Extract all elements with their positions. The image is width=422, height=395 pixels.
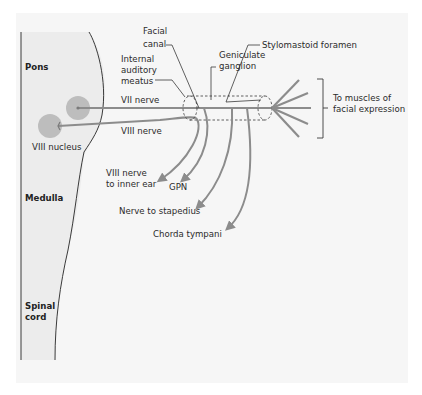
label-viii-inner-ear: VIII nerve xyxy=(106,168,147,178)
label-spinal-cord-2: cord xyxy=(25,312,46,322)
label-geniculate-ganglion: Geniculate xyxy=(219,50,265,60)
label-geniculate-ganglion-2: ganglion xyxy=(219,61,256,71)
label-facial-canal-2: canal xyxy=(143,39,166,49)
label-muscles: To muscles of xyxy=(332,93,392,103)
label-nerve-to-stapedius: Nerve to stapedius xyxy=(119,206,201,216)
label-internal-auditory-meatus-3: meatus xyxy=(121,76,154,86)
label-chorda-tympani: Chorda tympani xyxy=(153,229,222,239)
label-internal-auditory-meatus-2: auditory xyxy=(121,65,157,75)
label-gpn: GPN xyxy=(169,182,187,192)
label-stylomastoid-foramen: Stylomastoid foramen xyxy=(262,40,357,50)
label-viii-inner-ear-2: to inner ear xyxy=(106,179,157,189)
label-facial-canal: Facial xyxy=(143,26,167,36)
label-viii-nucleus: VIII nucleus xyxy=(32,142,82,152)
label-internal-auditory-meatus: Internal xyxy=(121,54,154,64)
facial-nerve-diagram: Pons Medulla Spinal cord Facial canal In… xyxy=(0,0,422,395)
label-spinal-cord-1: Spinal xyxy=(25,301,55,311)
label-muscles-2: facial expression xyxy=(333,104,405,114)
label-viii-nerve: VIII nerve xyxy=(121,126,162,136)
label-vii-nerve: VII nerve xyxy=(121,95,159,105)
label-pons: Pons xyxy=(25,62,48,72)
label-medulla: Medulla xyxy=(25,193,64,203)
